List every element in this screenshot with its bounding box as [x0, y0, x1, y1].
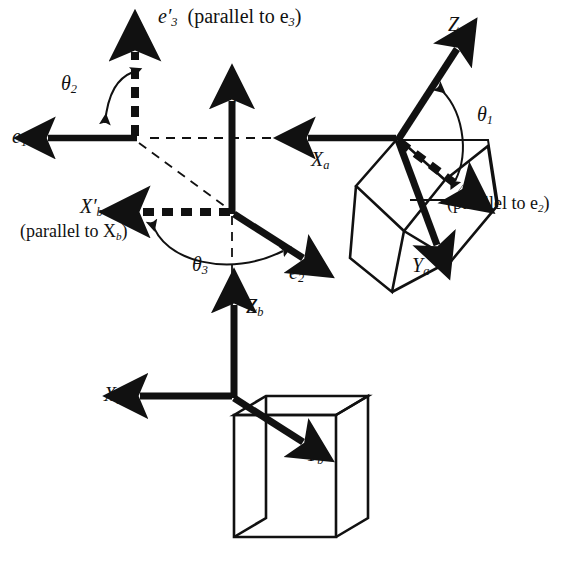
figure-canvas: e′3 (parallel to e3) θ2 e1 e3 e2 X′b (pa… [0, 0, 573, 574]
theta1-arc [438, 87, 463, 181]
label-e3-prime-parallel: e′3 (parallel to e3) [158, 6, 301, 29]
label-e1: e1 [12, 126, 27, 149]
label-Xa: Xa [311, 149, 329, 172]
label-theta3: θ3 [192, 254, 208, 277]
label-Xb: Xb [104, 384, 122, 407]
label-e2: e2 [289, 262, 304, 285]
label-theta2: θ2 [61, 73, 77, 96]
guide-diagonal-dashed [139, 143, 230, 210]
label-Zb: Zb [246, 296, 263, 319]
theta2-arc [105, 72, 133, 123]
b-frame-box [234, 396, 368, 537]
theta3-arc [152, 222, 283, 264]
b-frame [140, 305, 303, 442]
diagram-svg [0, 0, 573, 574]
axis-e2 [234, 214, 303, 258]
axis-Yb [234, 398, 303, 442]
label-Xb-prime: X′b [80, 196, 103, 219]
e-frame [141, 101, 303, 264]
label-Ya: Ya [412, 255, 429, 278]
label-Yb: Yb [306, 444, 323, 467]
label-theta1: θ1 [477, 104, 493, 127]
axis-Za [398, 49, 457, 140]
label-Za: Za [448, 14, 465, 37]
a-frame [308, 49, 498, 245]
label-e2-prime-parallel: (parallel to e2) [447, 194, 550, 214]
label-e3: e3 [221, 84, 236, 107]
label-Xb-prime-parallel: (parallel to Xb) [20, 222, 128, 242]
